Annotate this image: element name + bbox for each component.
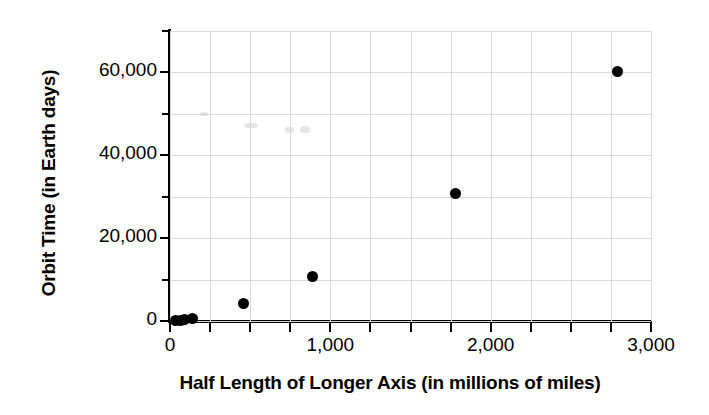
gridline-vertical (330, 31, 331, 321)
gridline-vertical (290, 31, 291, 321)
gridline-horizontal (170, 197, 651, 198)
x-axis-tick (450, 323, 452, 332)
gridline-horizontal (170, 280, 651, 281)
y-axis-tick-minor (162, 113, 169, 115)
gridline-vertical (411, 31, 412, 321)
scan-artifact (200, 112, 208, 116)
gridline-horizontal (170, 31, 651, 32)
y-axis-tick-minor (162, 196, 169, 198)
gridline-horizontal (170, 114, 651, 115)
gridline-horizontal (170, 155, 651, 156)
y-axis-tick-minor (162, 30, 169, 32)
x-axis-tick (570, 323, 572, 332)
y-axis-tick-major (160, 320, 169, 322)
data-point (612, 66, 623, 77)
x-axis-tick-label: 3,000 (591, 334, 709, 356)
x-axis-tick-label: 1,000 (270, 334, 390, 356)
x-axis-title: Half Length of Longer Axis (in millions … (110, 372, 670, 394)
y-axis-tick-label: 20,000 (47, 225, 157, 247)
data-point (187, 313, 198, 324)
gridline-vertical (210, 31, 211, 321)
scan-artifact (300, 126, 310, 133)
y-axis-tick-label: 60,000 (47, 59, 157, 81)
gridline-vertical (250, 31, 251, 321)
x-axis-tick (369, 323, 371, 332)
x-axis-tick-label: 0 (110, 334, 230, 356)
x-axis-tick (289, 323, 291, 332)
gridline-vertical (651, 31, 652, 321)
x-axis-tick (610, 323, 612, 332)
x-axis-tick (410, 323, 412, 332)
gridline-vertical (531, 31, 532, 321)
gridline-vertical (170, 31, 171, 321)
y-axis-tick-label: 40,000 (47, 142, 157, 164)
gridline-vertical (611, 31, 612, 321)
gridline-horizontal (170, 72, 651, 73)
y-axis-tick-minor (162, 279, 169, 281)
gridline-vertical (451, 31, 452, 321)
y-axis-tick-major (160, 71, 169, 73)
gridline-horizontal (170, 238, 651, 239)
y-axis-tick-label: 0 (47, 308, 157, 330)
scatter-plot-figure: Orbit Time (in Earth days) 020,00040,000… (0, 0, 709, 415)
gridline-vertical (571, 31, 572, 321)
scan-artifact (244, 123, 258, 128)
plot-area (170, 31, 651, 321)
x-axis-tick (490, 323, 492, 332)
y-axis-tick-major (160, 154, 169, 156)
gridline-vertical (370, 31, 371, 321)
data-point (238, 298, 249, 309)
x-axis-tick (650, 323, 652, 332)
scan-artifact (285, 127, 294, 133)
gridline-vertical (491, 31, 492, 321)
x-axis-tick (249, 323, 251, 332)
x-axis-tick (329, 323, 331, 332)
x-axis-tick-label: 2,000 (431, 334, 551, 356)
x-axis-tick (530, 323, 532, 332)
x-axis-tick (209, 323, 211, 332)
gridline-horizontal (170, 321, 651, 322)
y-axis-tick-major (160, 237, 169, 239)
